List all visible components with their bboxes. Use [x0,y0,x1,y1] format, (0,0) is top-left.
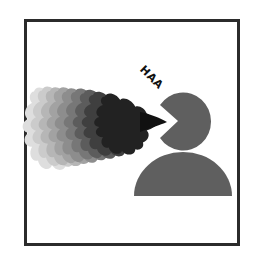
body [134,152,232,196]
exclamation-text: HAA [137,63,166,92]
pictogram-canvas: HAA [0,0,254,262]
exhale-plume [23,86,167,170]
exhale-pictogram: HAA [0,0,254,262]
head [160,93,211,151]
